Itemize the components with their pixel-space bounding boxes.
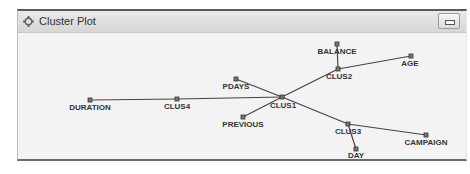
node-previous[interactable]	[241, 115, 245, 119]
node-label-clus3: CLUS3	[335, 127, 362, 136]
node-balance[interactable]	[335, 42, 339, 46]
node-label-duration: DURATION	[69, 103, 111, 112]
node-label-campaign: CAMPAIGN	[405, 138, 448, 147]
node-label-clus1: CLUS1	[270, 101, 297, 110]
node-clus4[interactable]	[175, 97, 179, 101]
cluster-graph: DURATIONCLUS4CLUS1PDAYSPREVIOUSCLUS2BALA…	[0, 0, 470, 174]
node-label-clus2: CLUS2	[326, 72, 353, 81]
node-age[interactable]	[409, 54, 413, 58]
node-label-age: AGE	[401, 59, 419, 68]
node-label-pdays: PDAYS	[223, 82, 250, 91]
node-label-balance: BALANCE	[317, 47, 357, 56]
node-label-day: DAY	[348, 151, 365, 160]
node-clus2[interactable]	[336, 67, 340, 71]
node-label-previous: PREVIOUS	[222, 120, 264, 129]
node-clus3[interactable]	[346, 122, 350, 126]
node-clus1[interactable]	[280, 95, 284, 99]
edge-clus4-clus1	[177, 97, 282, 99]
node-label-clus4: CLUS4	[164, 102, 191, 111]
node-campaign[interactable]	[424, 133, 428, 137]
node-pdays[interactable]	[234, 77, 238, 81]
edge-duration-clus4	[90, 99, 177, 100]
edge-clus2-age	[338, 56, 411, 69]
node-duration[interactable]	[88, 98, 92, 102]
